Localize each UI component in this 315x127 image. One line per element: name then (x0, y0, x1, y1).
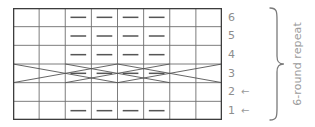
stitch-cell-r2-c3 (65, 83, 91, 102)
stitch-cell-r1-c2 (39, 101, 65, 120)
stitch-cell-r1-c1 (13, 101, 39, 120)
stitch-cell-r5-c8 (196, 27, 222, 46)
stitch-cell-r6-c8 (196, 8, 222, 27)
stitch-grid (13, 8, 222, 120)
stitch-cell-r2-c1 (13, 83, 39, 102)
stitch-cell-r1-c7 (170, 101, 196, 120)
stitch-cell-r4-c7 (170, 45, 196, 64)
row-number: 3 (228, 68, 237, 79)
stitch-cell-r6-c7 (170, 8, 196, 27)
repeat-caption-label: 6-round repeat (291, 22, 304, 106)
stitch-cell-r2-c5 (118, 83, 144, 102)
stitch-cell-r3-c8 (196, 64, 222, 83)
stitch-cell-r4-c1 (13, 45, 39, 64)
row-number: 1 (228, 105, 237, 116)
stitch-cell-r6-c2 (39, 8, 65, 27)
stitch-cell-r2-c6 (144, 83, 170, 102)
stitch-cell-r5-c7 (170, 27, 196, 46)
stitch-cell-r2-c2 (39, 83, 65, 102)
row-number: 2 (228, 86, 237, 97)
stitch-grid-svg (13, 8, 222, 120)
stitch-cell-r2-c4 (91, 83, 117, 102)
bracket-curly-path (270, 8, 284, 120)
stitch-cell-r5-c1 (13, 27, 39, 46)
repeat-bracket (268, 6, 286, 122)
stitch-cell-r4-c8 (196, 45, 222, 64)
row-number: 5 (228, 30, 237, 41)
stitch-cell-r3-c2 (39, 64, 65, 83)
stitch-cell-r2-c7 (170, 83, 196, 102)
stitch-cell-r3-c1 (13, 64, 39, 83)
stitch-cell-r3-c7 (170, 64, 196, 83)
repeat-bracket-svg (268, 6, 286, 122)
row-direction-arrow-icon: ← (241, 106, 249, 116)
repeat-caption: 6-round repeat (286, 8, 308, 120)
stitch-cell-r4-c2 (39, 45, 65, 64)
row-number: 4 (228, 49, 237, 60)
row-direction-arrow-icon: ← (241, 87, 249, 97)
stitch-cell-r6-c1 (13, 8, 39, 27)
row-number: 6 (228, 12, 237, 23)
stitch-cell-r5-c2 (39, 27, 65, 46)
knitting-chart: 65432←1← 6-round repeat (0, 0, 315, 127)
stitch-cell-r1-c8 (196, 101, 222, 120)
stitch-cell-r2-c8 (196, 83, 222, 102)
